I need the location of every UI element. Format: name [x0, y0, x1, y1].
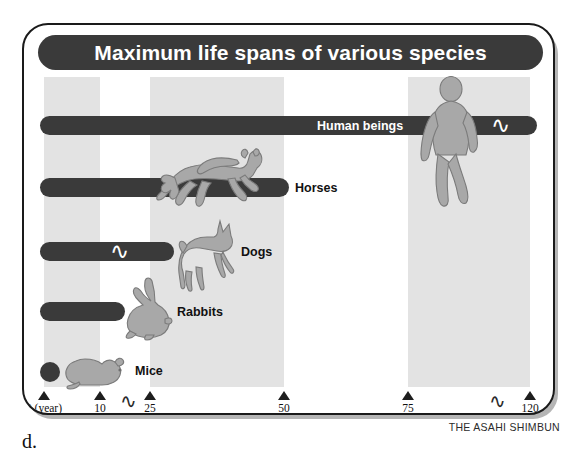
bar-label-human-beings: Human beings — [317, 119, 403, 133]
bar-label-rabbits: Rabbits — [177, 305, 223, 319]
source-credit: THE ASAHI SHIMBUN — [449, 421, 560, 433]
axis-tick-120 — [524, 391, 536, 400]
axis-tick-0 — [38, 391, 50, 400]
infographic-frame: Maximum life spans of various species ∿ … — [22, 23, 555, 415]
bar-break-icon-human: ∿ — [491, 114, 504, 137]
horse-icon — [154, 148, 270, 210]
bar-label-dogs: Dogs — [241, 245, 272, 259]
axis-scale-break-icon-2: ∿ — [489, 389, 506, 413]
bar-rabbits — [40, 302, 125, 321]
mouse-icon — [64, 353, 130, 391]
bar-mice — [40, 362, 60, 382]
bar-dogs — [40, 242, 174, 261]
figure-letter: d. — [22, 430, 37, 453]
axis-tick-label-120: 120 — [521, 402, 538, 414]
plot-area: ∿ Human beings Horses — [24, 70, 555, 415]
human-running-icon — [416, 76, 482, 208]
axis-tick-label-25: 25 — [144, 402, 156, 414]
axis-tick-label-75: 75 — [402, 402, 414, 414]
bar-label-mice: Mice — [135, 364, 163, 378]
page-title: Maximum life spans of various species — [94, 41, 486, 65]
axis-tick-10 — [94, 391, 106, 400]
axis-tick-label-50: 50 — [278, 402, 290, 414]
dog-icon — [178, 215, 236, 293]
axis-tick-25 — [144, 391, 156, 400]
axis-tick-75 — [402, 391, 414, 400]
axis-tick-50 — [278, 391, 290, 400]
rabbit-icon — [124, 277, 174, 341]
chart-title-banner: Maximum life spans of various species — [38, 35, 543, 70]
axis-tick-label-10: 10 — [94, 402, 106, 414]
bar-label-horses: Horses — [295, 181, 337, 195]
x-axis: 0 (year) 10 ∿ 25 50 75 ∿ 120 — [24, 391, 555, 415]
axis-scale-break-icon-1: ∿ — [120, 389, 137, 413]
bar-break-icon-dogs: ∿ — [110, 240, 123, 263]
axis-tick-label-0: 0 (year) — [26, 402, 62, 414]
